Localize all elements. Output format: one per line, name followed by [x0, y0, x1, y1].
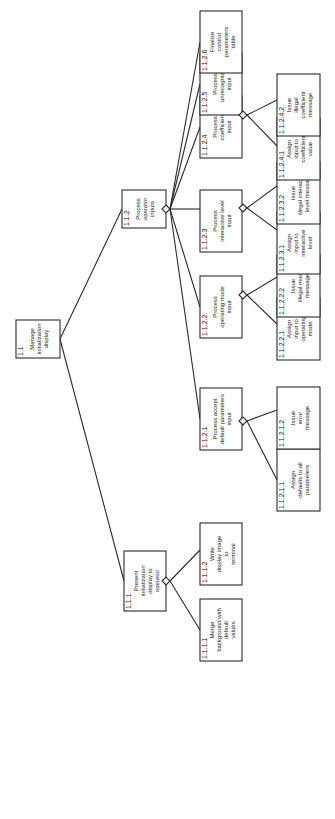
edge-1-1-2-to-1-1-2-1: [170, 209, 200, 419]
node-label-line: initialization: [140, 565, 146, 596]
node-id: 1.1.2.1: [201, 426, 208, 448]
node-label-line: display to: [147, 568, 153, 594]
node-label-line: Write: [209, 546, 215, 561]
edge-1-1-2-to-1-1-2-5: [170, 84, 200, 209]
node-label-line: background with: [216, 608, 222, 652]
edge-1-1-1-to-1-1-1-1: [170, 581, 200, 630]
node-id: 1.1.2.6: [201, 49, 208, 71]
node-label-line: Process: [212, 116, 218, 138]
node-1-1-2-2: 1.1.2.2Processoperating modeinput: [200, 276, 242, 338]
edge-1-1-to-1-1-2: [60, 209, 122, 339]
node-1-1-2: 1.1.2Processoperatorinputs: [122, 190, 166, 228]
node-label-line: operating mode: [219, 285, 225, 327]
node-label-line: Process accept: [212, 398, 218, 439]
node-label-line: Assign: [286, 320, 292, 338]
node-id: 1.1.2.1.2: [278, 420, 285, 447]
node-label-line: Present: [133, 570, 139, 591]
node-label-line: Merge: [209, 621, 215, 639]
node-label-line: Issue: [290, 185, 296, 200]
node-label-line: level: [307, 237, 313, 249]
node-label-line: default parameters: [219, 394, 225, 444]
node-label-line: Finalize: [209, 31, 215, 52]
edge-1-1-2-1-to-1-1-2-1-2: [247, 410, 277, 421]
node-label-line: coefficient: [300, 91, 306, 118]
node-label-line: Assign: [286, 140, 292, 158]
node-label-line: values: [230, 621, 236, 638]
node-label-line: Process: [212, 73, 218, 95]
node-label-line: Process: [212, 210, 218, 232]
edges-layer: [60, 42, 277, 630]
node-1-1-2-3: 1.1.2.3Processinteractive levelinput: [200, 190, 242, 252]
node-label-line: Issue: [286, 97, 292, 112]
edge-1-1-2-3-to-1-1-2-3-2: [247, 186, 277, 208]
node-label-line: operator: [154, 570, 160, 592]
node-1-1-1-1: 1.1.1.1Mergebackground withdefaultvalues: [200, 599, 242, 661]
node-label-line: initialization: [36, 323, 42, 354]
edge-1-1-2-to-1-1-2-4: [170, 127, 200, 209]
node-label-line: Issue: [290, 278, 296, 293]
edge-1-1-2-to-1-1-2-6: [170, 42, 200, 209]
edge-1-1-2-to-1-1-2-2: [170, 209, 200, 307]
node-label-line: value: [307, 141, 313, 156]
node-label-line: operator: [142, 198, 148, 220]
node-label-line: display image: [216, 535, 222, 572]
edge-1-1-2-2-to-1-1-2-2-1: [247, 295, 277, 324]
edge-1-1-2-3-to-1-1-2-3-1: [247, 208, 277, 230]
node-1-1-2-1-2: 1.1.2.1.2Issueerrormessage: [277, 387, 320, 449]
node-label-line: input: [226, 120, 232, 133]
edge-1-1-to-1-1-1: [60, 339, 124, 581]
node-label-line: input to: [293, 138, 299, 158]
node-label-line: message: [304, 273, 310, 298]
node-id: 1.1.2.3.1: [278, 245, 285, 272]
node-label-line: coefficient: [300, 135, 306, 162]
node-label-line: default: [223, 621, 229, 639]
node-label-line: defaults to all: [297, 462, 303, 497]
node-id: 1.1.2.2: [201, 314, 208, 336]
edge-1-1-2-1-to-1-1-2-1-1: [247, 421, 277, 480]
node-label-line: parameters: [304, 465, 310, 495]
node-id: 1.1.2.1.1: [278, 482, 285, 509]
edge-1-1-2-4-to-1-1-2-4-1: [247, 115, 277, 146]
node-1-1-2-1: 1.1.2.1Process acceptdefault parametersi…: [200, 388, 242, 450]
node-label-line: Process: [212, 296, 218, 318]
node-1-1-1-2: 1.1.1.2Writedisplay imagetoterminal: [200, 523, 242, 585]
edge-1-1-2-4-to-1-1-2-4-2: [247, 100, 277, 115]
node-1-1-2-1-1: 1.1.2.1.1Assigndefaults to allparameters: [277, 449, 320, 511]
node-label-line: error: [297, 412, 303, 425]
node-label-line: to: [223, 551, 229, 557]
node-label-line: interactive level: [219, 200, 225, 241]
node-label-line: interactive: [300, 229, 306, 257]
node-label-line: input to: [293, 318, 299, 338]
node-label-line: control: [216, 33, 222, 51]
node-label-line: message: [307, 92, 313, 117]
hierarchy-diagram: 1.1Manageinitializationdisplay1.1.1Prese…: [0, 0, 335, 819]
node-label-line: parameters: [223, 27, 229, 57]
node-id: 1.1.2.4.2: [278, 107, 285, 134]
node-id: 1.1.2.2.2: [278, 288, 285, 315]
node-id: 1.1.1.1: [201, 637, 208, 659]
node-label-line: Manage: [29, 327, 35, 349]
node-label-line: Issue: [290, 410, 296, 425]
node-label-line: terminal: [230, 543, 236, 564]
node-label-line: Assign: [290, 471, 296, 489]
node-label-line: illegal: [293, 97, 299, 112]
node-label-line: input: [226, 214, 232, 227]
node-id: 1.1.2.4: [201, 134, 208, 156]
node-label-line: inputs: [149, 201, 155, 217]
node-1-1-1: 1.1.1Presentinitializationdisplay tooper…: [124, 551, 166, 611]
node-id: 1.1.2.3.2: [278, 195, 285, 222]
node-label-line: input: [226, 77, 232, 90]
node-id: 1.1.1.2: [201, 561, 208, 583]
node-label-line: operating: [300, 316, 306, 341]
node-id: 1.1.2: [123, 210, 130, 226]
node-label-line: message: [304, 405, 310, 430]
node-id: 1.1.1: [125, 593, 132, 609]
node-label-line: display: [43, 330, 49, 349]
node-1-1-2-4-2: 1.1.2.4.2Issueillegalcoefficientmessage: [277, 74, 320, 136]
node-id: 1.1.2.2.1: [278, 331, 285, 358]
node-label-line: mode: [307, 321, 313, 337]
node-1-1-2-6: 1.1.2.6Finalizecontrolparameterstable: [200, 11, 242, 73]
node-label-line: input to: [293, 232, 299, 252]
node-label-line: table: [230, 35, 236, 49]
node-id: 1.1: [17, 346, 24, 356]
